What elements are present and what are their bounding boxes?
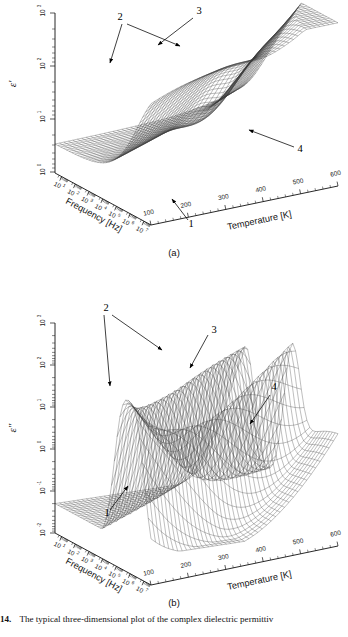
svg-text:500: 500 (292, 176, 304, 185)
svg-text:4: 4 (103, 205, 108, 211)
annotation-label-a-1: 1 (188, 218, 193, 229)
z-axis-title-b: ε" (6, 423, 18, 432)
svg-text:300: 300 (217, 192, 229, 201)
z-tick-label-a-2: 10 (39, 62, 46, 70)
annotation-label-a-2: 2 (117, 11, 122, 22)
svg-text:600: 600 (329, 169, 341, 178)
svg-text:7: 7 (144, 227, 149, 233)
temperature-tick-label: 400 (255, 544, 267, 553)
annotation-label-b-4: 4 (271, 381, 277, 392)
annotation-label-b-3: 3 (211, 324, 216, 335)
z-tick-exp-a-1: 1 (37, 110, 42, 113)
z-tick-label-b-0: 10 (39, 529, 46, 537)
z-tick-exp-b-4: 2 (37, 356, 42, 359)
svg-text:10: 10 (135, 584, 145, 594)
z-tick-exp-b-5: 3 (37, 314, 42, 317)
svg-text:1: 1 (62, 183, 67, 189)
svg-text:6: 6 (131, 580, 136, 586)
z-axis-b: 10 3 10 2 10 1 10 0 10 -1 (6, 314, 55, 536)
svg-text:6: 6 (131, 220, 136, 226)
temperature-tick-label: 600 (329, 169, 341, 178)
svg-text:10: 10 (135, 224, 145, 234)
annotation-label-b-2: 2 (103, 302, 108, 313)
plot-panel-a: 10 3 10 2 10 1 10 0 ε' (0, 0, 348, 300)
surface-plot-b: 10 3 10 2 10 1 10 0 10 -1 (0, 268, 348, 608)
temperature-tick-label: 400 (255, 184, 267, 193)
surface-plot-a: 10 3 10 2 10 1 10 0 ε' (0, 0, 348, 300)
z-tick-exp-b-2: 0 (37, 440, 42, 443)
temperature-axis-title-b: Temperature [K] (226, 569, 292, 592)
temperature-axis-title-a: Temperature [K] (226, 209, 292, 232)
annotation-arrow-a-3a (158, 18, 193, 45)
z-tick-label-b-3: 10 (39, 403, 46, 411)
z-tick-label-a-3: 10 (39, 9, 46, 17)
z-tick-exp-b-0: -2 (37, 523, 42, 528)
z-tick-exp-a-0: 0 (37, 163, 42, 166)
z-tick-label-a-1: 10 (39, 115, 46, 123)
annotation-arrow-b-3b (112, 315, 162, 350)
figure-caption: 14.The typical three-dimensional plot of… (0, 614, 348, 625)
annotation-arrow-b-2 (104, 315, 110, 386)
svg-text:7: 7 (144, 587, 149, 593)
svg-text:100: 100 (142, 568, 154, 577)
temperature-tick-label: 300 (217, 552, 229, 561)
svg-text:600: 600 (329, 529, 341, 538)
z-tick-exp-a-3: 3 (37, 4, 42, 7)
z-tick-label-b-2: 10 (39, 445, 46, 453)
svg-text:2: 2 (76, 550, 81, 556)
svg-text:400: 400 (255, 184, 267, 193)
svg-text:300: 300 (217, 552, 229, 561)
svg-text:5: 5 (117, 572, 122, 578)
temperature-tick-label: 100 (142, 568, 154, 577)
annotation-label-a-3: 3 (196, 5, 201, 16)
caption-number: 14. (0, 614, 11, 625)
figure-container: 10 3 10 2 10 1 10 0 ε' (0, 0, 348, 637)
temperature-tick-label: 500 (292, 176, 304, 185)
temperature-tick-label: 100 (142, 208, 154, 217)
mesh-surface-b (55, 343, 338, 551)
svg-text:200: 200 (180, 560, 192, 569)
temperature-tick-label: 300 (217, 192, 229, 201)
temperature-tick-label: 500 (292, 536, 304, 545)
z-tick-label-b-4: 10 (39, 361, 46, 369)
subcaption-a: (a) (168, 247, 180, 258)
z-tick-exp-a-2: 2 (37, 57, 42, 60)
svg-text:400: 400 (255, 544, 267, 553)
z-tick-exp-b-3: 1 (37, 398, 42, 401)
z-tick-label-b-5: 10 (39, 319, 46, 327)
annotation-label-a-4: 4 (297, 143, 303, 154)
temperature-tick-label: 600 (329, 529, 341, 538)
z-axis-title-a: ε' (6, 80, 18, 87)
svg-text:2: 2 (76, 190, 81, 196)
z-tick-label-b-1: 10 (39, 487, 46, 495)
svg-text:500: 500 (292, 536, 304, 545)
svg-text:1: 1 (62, 543, 67, 549)
z-axis-a: 10 3 10 2 10 1 10 0 ε' (6, 4, 55, 175)
temperature-tick-label: 200 (180, 560, 192, 569)
svg-text:100: 100 (142, 208, 154, 217)
svg-text:3: 3 (90, 558, 95, 564)
annotation-label-b-1: 1 (104, 507, 109, 518)
svg-text:5: 5 (117, 212, 122, 218)
svg-text:4: 4 (103, 565, 108, 571)
svg-text:10: 10 (53, 180, 63, 190)
z-tick-exp-b-1: -1 (37, 481, 42, 486)
plot-panel-b: 10 3 10 2 10 1 10 0 10 -1 (0, 268, 348, 568)
svg-text:3: 3 (90, 198, 95, 204)
frequency-axis-b: 101102103104105106107 Frequency [Hz] (53, 533, 151, 596)
z-tick-label-a-0: 10 (39, 168, 46, 176)
svg-text:10: 10 (53, 540, 63, 550)
annotation-arrow-a-3b (127, 24, 180, 46)
temperature-axis-b: 100200300400500600 Temperature [K] (142, 529, 341, 592)
caption-text: The typical three-dimensional plot of th… (19, 614, 273, 624)
subcaption-b: (b) (168, 597, 180, 608)
